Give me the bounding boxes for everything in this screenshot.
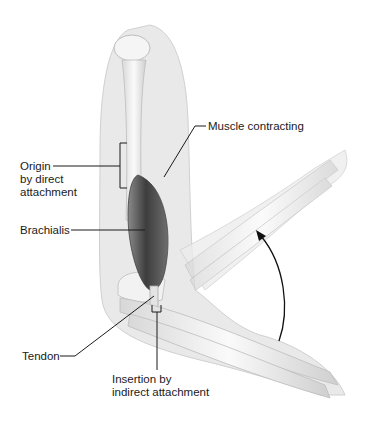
label-origin-line2: by direct [20,173,63,186]
label-insertion-line2: indirect attachment [112,386,209,399]
label-muscle-contracting: Muscle contracting [208,120,304,133]
label-insertion-line1: Insertion by [112,373,171,386]
label-brachialis: Brachialis [20,224,70,237]
curved-arrow-icon [256,230,285,341]
forearm-raised-ghost [180,150,347,290]
label-origin-line3: attachment [20,186,77,199]
label-tendon: Tendon [22,350,60,363]
label-origin-line1: Origin [20,160,51,173]
